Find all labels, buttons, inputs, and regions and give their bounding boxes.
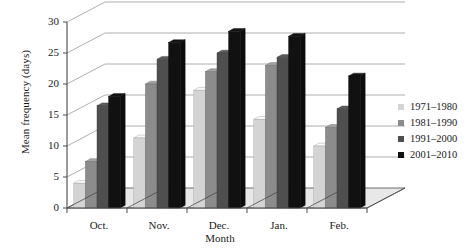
legend-label: 1981–1990 [410,118,457,129]
x-tick-label: Jan. [250,220,308,231]
x-tick-label: Nov. [130,220,188,231]
legend-item[interactable]: 1981–1990 [398,115,457,131]
legend: 1971–19801981–19901991–20002001–2010 [398,99,457,163]
legend-swatch-icon [398,152,404,158]
legend-label: 2001–2010 [410,150,457,161]
y-tick-label: 25 [33,47,59,58]
bar-chart: 051015202530 Oct.Nov.Dec.Jan.Feb. Mean f… [0,0,476,252]
bars-group [74,29,365,209]
y-tick-label: 15 [33,109,59,120]
legend-label: 1991–2000 [410,134,457,145]
y-tick-label: 20 [33,78,59,89]
x-tick-label: Oct. [70,220,128,231]
y-tick-label: 5 [33,171,59,182]
legend-item[interactable]: 1971–1980 [398,99,457,115]
legend-item[interactable]: 1991–2000 [398,131,457,147]
y-axis-title: Mean frequency (days) [19,17,31,187]
legend-swatch-icon [398,120,404,126]
x-tick-label: Dec. [190,220,248,231]
x-tick-label: Feb. [310,220,368,231]
x-axis-title: Month [60,232,380,244]
legend-label: 1971–1980 [410,102,457,113]
y-tick-label: 30 [33,16,59,27]
y-tick-label: 0 [33,202,59,213]
y-tick-label: 10 [33,140,59,151]
legend-item[interactable]: 2001–2010 [398,147,457,163]
legend-swatch-icon [398,136,404,142]
legend-swatch-icon [398,104,404,110]
